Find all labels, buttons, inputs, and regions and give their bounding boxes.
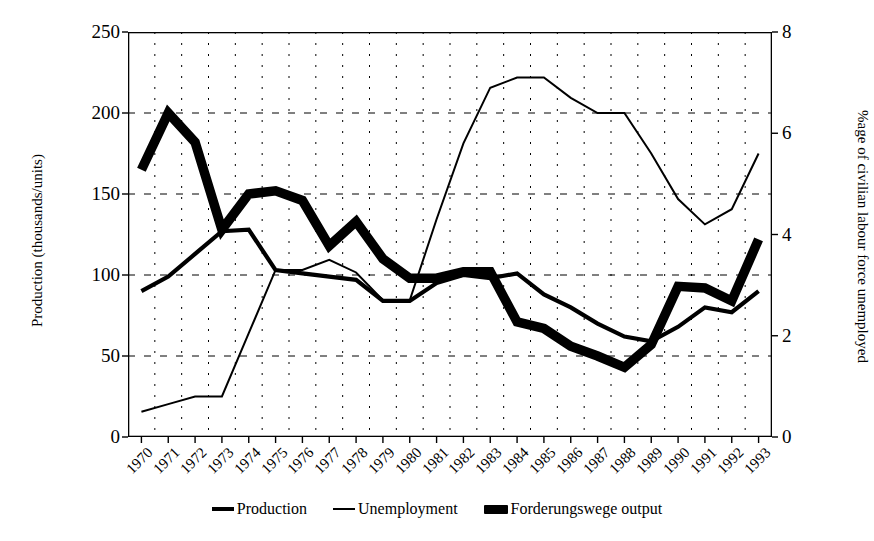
y-axis-right-tick-label: 8 (782, 22, 826, 41)
y-axis-right-title: %age of civilian labour force unemployed (854, 47, 871, 427)
plot-frame (129, 33, 772, 437)
y-axis-left-tick-label: 200 (76, 103, 120, 122)
y-axis-left-title: Production (thousands/units) (29, 76, 46, 406)
plot-svg (128, 32, 772, 437)
series-line-unemployment (141, 78, 758, 412)
y-axis-left-tick-label: 250 (76, 22, 120, 41)
legend-marker-production-icon (212, 507, 234, 511)
y-axis-left-tick-label: 50 (76, 346, 120, 365)
chart-legend: Production Unemployment Forderungswege o… (0, 500, 874, 518)
legend-label-unemployment: Unemployment (358, 500, 458, 518)
plot-area (128, 32, 772, 437)
data-series-layer (141, 78, 758, 412)
y-axis-right-tick-label: 6 (782, 123, 826, 142)
legend-marker-forderungswege-icon (484, 505, 508, 514)
y-axis-right-tick-label: 4 (782, 225, 826, 244)
legend-label-production: Production (237, 500, 307, 518)
legend-item-production[interactable]: Production (212, 500, 307, 518)
legend-marker-unemployment-icon (333, 508, 355, 510)
chart-figure: Production (thousands/units) %age of civ… (0, 0, 874, 541)
legend-item-forderungswege[interactable]: Forderungswege output (484, 500, 663, 518)
y-axis-right-tick-label: 0 (782, 427, 826, 446)
y-axis-left-tick-label: 0 (76, 427, 120, 446)
y-axis-right-tick-label: 2 (782, 326, 826, 345)
legend-item-unemployment[interactable]: Unemployment (333, 500, 458, 518)
legend-label-forderungswege: Forderungswege output (511, 500, 663, 518)
y-axis-left-tick-label: 100 (76, 265, 120, 284)
gridlines (128, 32, 772, 437)
y-axis-left-tick-label: 150 (76, 184, 120, 203)
